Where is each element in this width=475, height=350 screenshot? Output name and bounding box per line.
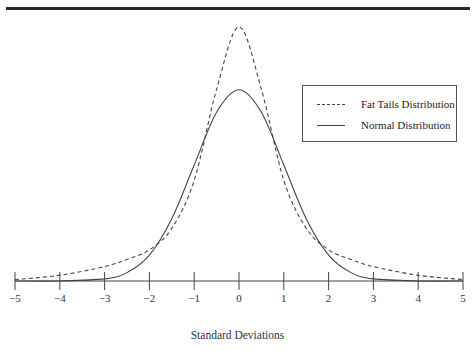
solid-line-swatch-icon: [317, 125, 345, 126]
x-tick-label: −4: [54, 292, 66, 304]
legend-item-normal: Normal Distribution: [303, 117, 451, 133]
fat-tails-curve: [15, 27, 463, 280]
x-tick-label: 2: [326, 292, 332, 304]
dashed-line-swatch-icon: [317, 104, 345, 105]
x-tick-label: 4: [415, 292, 421, 304]
x-tick-label: −2: [144, 292, 156, 304]
x-axis-label: Standard Deviations: [0, 329, 475, 341]
legend-item-fat-tails: Fat Tails Distribution: [303, 96, 455, 112]
legend-label: Normal Distribution: [361, 119, 451, 131]
legend: Fat Tails Distribution Normal Distributi…: [302, 85, 457, 142]
x-tick-label: 5: [460, 292, 466, 304]
x-tick-label: 1: [281, 292, 287, 304]
x-tick-label: 0: [236, 292, 242, 304]
x-tick-label: −3: [99, 292, 111, 304]
x-tick-label: −5: [9, 292, 21, 304]
x-tick-label: 3: [371, 292, 377, 304]
x-tick-label: −1: [188, 292, 200, 304]
legend-label: Fat Tails Distribution: [361, 98, 455, 110]
